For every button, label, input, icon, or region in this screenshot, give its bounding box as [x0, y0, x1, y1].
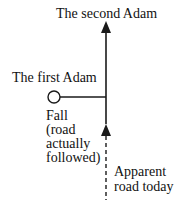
fall-label: Fall (road actually followed)	[46, 109, 100, 165]
up-arrow-icon	[101, 124, 111, 136]
up-arrow-icon	[101, 21, 111, 33]
apparent-road-label: Apparent road today	[114, 164, 173, 194]
first-adam-label: The first Adam	[12, 70, 97, 85]
first-adam-circle	[48, 91, 60, 103]
second-adam-label: The second Adam	[56, 6, 157, 21]
